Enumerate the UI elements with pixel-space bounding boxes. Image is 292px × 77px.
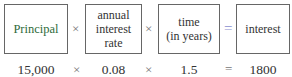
interest-box: interest [236,4,290,54]
times-operator: × [145,21,152,37]
times-operator: × [145,62,152,77]
rate-label: annual interest rate [89,8,139,50]
times-operator: × [73,62,80,77]
rate-value: 0.08 [85,62,142,77]
principal-label: Principal [13,22,58,36]
interest-value: 1800 [236,62,290,77]
time-value: 1.5 [158,62,220,77]
principal-value: 15,000 [6,62,66,77]
time-box: time(in years) [158,4,220,54]
principal-box: Principal [4,4,68,54]
equals-operator: = [225,61,232,77]
interest-label: interest [245,22,280,36]
rate-box: annual interest rate [85,4,142,54]
time-label: time(in years) [166,15,212,43]
equals-operator: = [224,20,232,37]
times-operator: × [72,21,79,37]
